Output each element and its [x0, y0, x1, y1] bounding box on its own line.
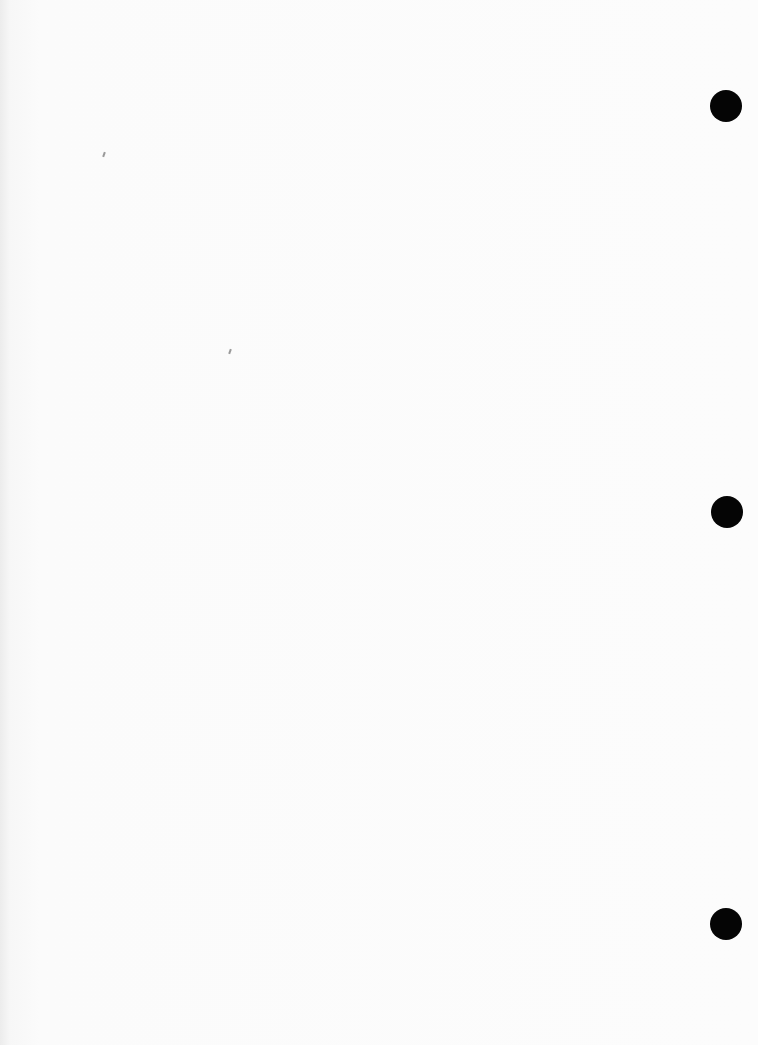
hole-punch-top: [710, 90, 742, 122]
hole-punch-middle: [711, 496, 743, 528]
scan-speck: [102, 152, 106, 157]
blank-scanned-page: [0, 0, 758, 1045]
hole-punch-bottom: [710, 908, 742, 940]
scan-speck: [228, 349, 232, 354]
